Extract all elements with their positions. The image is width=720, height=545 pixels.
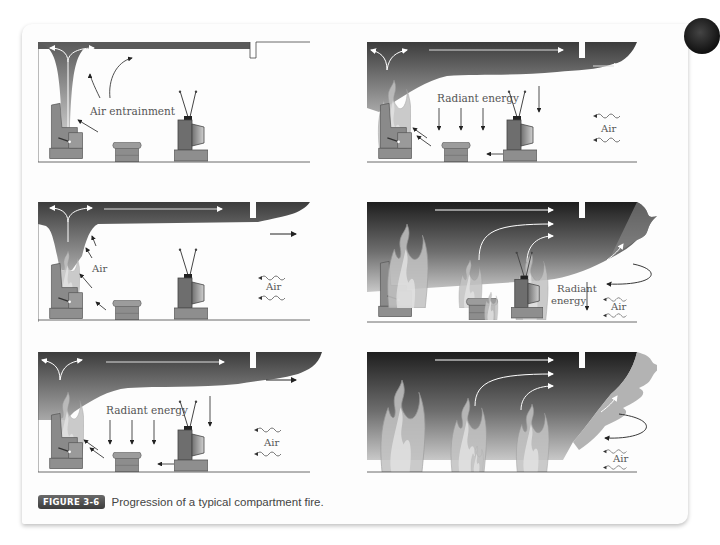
air-inflow-icon — [593, 138, 620, 142]
figure-caption: FIGURE 3-6 Progression of a typical comp… — [38, 495, 324, 509]
ottoman — [113, 142, 141, 162]
label-air: Air — [610, 301, 626, 312]
label-air: Air — [612, 453, 628, 464]
ceiling-soffit — [250, 42, 310, 58]
panel-3-ceiling-jet: Air Air — [38, 200, 328, 328]
panel-4-flashover: Radiant energy Air — [367, 200, 657, 328]
air-inflow-icon — [593, 114, 620, 118]
label-radiant: Radiant — [557, 283, 597, 294]
label-energy: energy — [551, 295, 586, 306]
panel-5-radiant-energy: Radiant energy Air — [38, 350, 328, 478]
label-air-right: Air — [265, 281, 281, 292]
panel-2-radiant-energy: Radiant energy Air — [367, 40, 657, 168]
label-radiant-energy: Radiant energy — [437, 92, 519, 104]
label-overlay-1 — [118, 100, 208, 114]
figure-caption-text: Progression of a typical compartment fir… — [112, 496, 324, 508]
figure-badge: FIGURE 3-6 — [38, 495, 105, 509]
label-radiant-energy: Radiant energy — [106, 404, 188, 416]
label-air: Air — [263, 437, 279, 448]
panel-6-full-involvement: Air — [367, 350, 657, 478]
label-air-left: Air — [91, 263, 107, 274]
label-air: Air — [600, 123, 616, 134]
hot-gas-layer — [38, 202, 310, 270]
smoke-plume — [38, 42, 96, 130]
page-corner-marker — [684, 18, 720, 54]
